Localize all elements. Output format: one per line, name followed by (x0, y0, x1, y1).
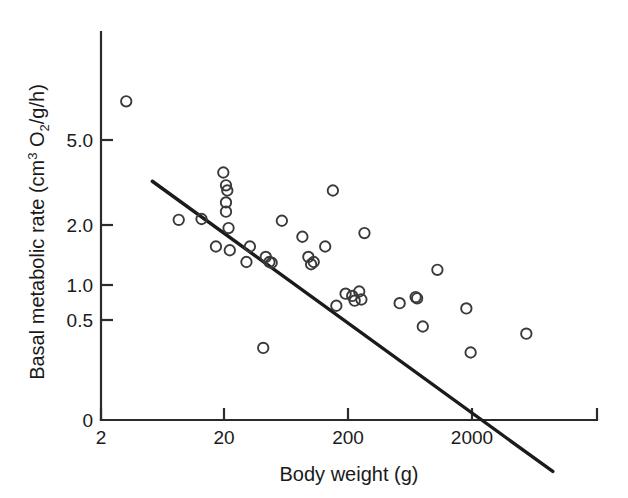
data-point (394, 298, 404, 308)
y-axis-title-middle: O (26, 131, 48, 152)
x-tick-label-2000: 2000 (451, 427, 493, 448)
data-point (465, 347, 475, 357)
data-point (359, 228, 369, 238)
data-point (521, 328, 531, 338)
data-point (241, 257, 251, 267)
x-tick-label-20: 20 (213, 427, 234, 448)
y-axis-title-prefix: Basal metabolic rate (cm (26, 160, 48, 380)
y-axis-title-subscript: 2 (37, 124, 52, 131)
x-axis-ticks (101, 408, 597, 420)
y-axis-title-superscript: 3 (25, 153, 40, 160)
data-point (211, 241, 221, 251)
data-point (223, 223, 233, 233)
data-point (174, 215, 184, 225)
y-axis-tick-labels: 5.0 2.0 1.0 0.5 0 (67, 130, 93, 431)
data-point (258, 343, 268, 353)
data-point (328, 185, 338, 195)
data-point (418, 321, 428, 331)
x-axis-title: Body weight (g) (280, 463, 419, 485)
data-point (121, 96, 131, 106)
data-point (297, 232, 307, 242)
chart-figure: 5.0 2.0 1.0 0.5 0 2 20 200 2000 Body wei… (0, 0, 628, 498)
y-tick-label-0: 0 (82, 410, 93, 431)
y-axis-title-suffix: /g/h) (26, 84, 48, 124)
y-tick-label-5: 5.0 (67, 130, 93, 151)
data-point (340, 289, 350, 299)
y-tick-label-0-5: 0.5 (67, 310, 93, 331)
data-point (218, 167, 228, 177)
scatter-points-group (121, 96, 531, 358)
scatter-plot-canvas: 5.0 2.0 1.0 0.5 0 2 20 200 2000 Body wei… (0, 0, 628, 498)
x-tick-label-2: 2 (96, 427, 107, 448)
data-point (225, 245, 235, 255)
y-tick-label-1: 1.0 (67, 275, 93, 296)
x-tick-label-200: 200 (332, 427, 364, 448)
data-point (320, 241, 330, 251)
data-point (277, 216, 287, 226)
y-tick-label-2: 2.0 (67, 215, 93, 236)
y-axis-ticks (101, 140, 113, 320)
data-point (461, 303, 471, 313)
data-point (331, 301, 341, 311)
y-axis-title: Basal metabolic rate (cm3 O2/g/h) (25, 84, 52, 380)
data-point (432, 265, 442, 275)
x-axis-tick-labels: 2 20 200 2000 (96, 427, 493, 448)
